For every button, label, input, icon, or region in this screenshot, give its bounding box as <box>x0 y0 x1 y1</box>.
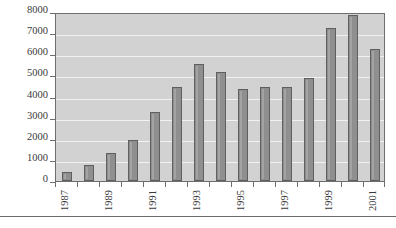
x-axis-tick-mark <box>319 182 320 187</box>
bar <box>238 89 249 181</box>
x-axis-tick-mark <box>231 182 232 187</box>
x-axis-tick-mark <box>187 182 188 187</box>
bar-highlight <box>306 80 308 180</box>
bar <box>260 87 271 181</box>
bar <box>106 153 117 181</box>
x-axis-tick-mark <box>99 182 100 187</box>
bar-highlight <box>174 89 176 179</box>
bar <box>150 112 161 181</box>
bar-highlight <box>218 74 220 179</box>
bar-highlight <box>350 17 352 179</box>
bar <box>370 49 381 181</box>
x-axis-tick-label: 1993 <box>192 190 203 211</box>
y-axis-tick-label: 3000 <box>27 111 48 122</box>
x-axis-tick-mark <box>253 182 254 187</box>
bar-highlight <box>372 51 374 179</box>
y-axis-tick-label: 4000 <box>27 90 48 101</box>
x-axis-tick-mark <box>363 182 364 187</box>
bar-highlight <box>328 30 330 179</box>
x-axis-tick-mark <box>55 182 56 187</box>
x-axis-tick-mark <box>77 182 78 187</box>
x-axis-tick-mark <box>209 182 210 187</box>
bar-highlight <box>108 155 110 179</box>
bar-highlight <box>86 167 88 179</box>
x-axis-tick-label: 2001 <box>368 190 379 211</box>
y-axis-tick-label: 6000 <box>27 47 48 58</box>
x-axis-tick-mark <box>165 182 166 187</box>
bar-highlight <box>284 89 286 179</box>
bar <box>326 28 337 181</box>
bar <box>282 87 293 181</box>
bar <box>348 15 359 181</box>
x-axis-tick-label: 1995 <box>236 190 247 211</box>
y-axis-tick-label: 8000 <box>27 5 48 16</box>
bar-chart-figure: 010002000300040005000600070008000 198719… <box>0 0 396 228</box>
bar-highlight <box>240 91 242 179</box>
bars-layer <box>56 14 384 181</box>
x-axis-tick-label: 1999 <box>324 190 335 211</box>
bar <box>172 87 183 181</box>
plot-area <box>55 13 385 182</box>
x-axis-tick-mark <box>275 182 276 187</box>
y-axis: 010002000300040005000600070008000 <box>0 13 55 182</box>
bar <box>194 64 205 181</box>
bar-highlight <box>196 66 198 179</box>
bar <box>62 172 73 181</box>
x-axis-tick-mark <box>143 182 144 187</box>
x-axis-tick-label: 1989 <box>104 190 115 211</box>
bar <box>84 165 95 181</box>
bar-highlight <box>152 114 154 179</box>
x-axis-tick-label: 1997 <box>280 190 291 211</box>
x-axis-tick-label: 1987 <box>60 190 71 211</box>
bar <box>304 78 315 182</box>
bar-highlight <box>130 142 132 179</box>
x-axis-tick-mark <box>121 182 122 187</box>
y-axis-tick-label: 0 <box>43 174 48 185</box>
y-axis-tick-label: 1000 <box>27 153 48 164</box>
bar-highlight <box>64 174 66 179</box>
bar <box>216 72 227 181</box>
x-axis-tick-mark <box>384 182 385 187</box>
x-axis-tick-mark <box>297 182 298 187</box>
x-axis: 19871989199119931995199719992001 <box>55 182 385 228</box>
y-axis-tick-label: 7000 <box>27 26 48 37</box>
y-axis-tick-label: 5000 <box>27 68 48 79</box>
bar <box>128 140 139 181</box>
bar-highlight <box>262 89 264 179</box>
bottom-divider <box>0 216 396 217</box>
x-axis-tick-label: 1991 <box>148 190 159 211</box>
x-axis-tick-mark <box>341 182 342 187</box>
y-axis-tick-label: 2000 <box>27 132 48 143</box>
